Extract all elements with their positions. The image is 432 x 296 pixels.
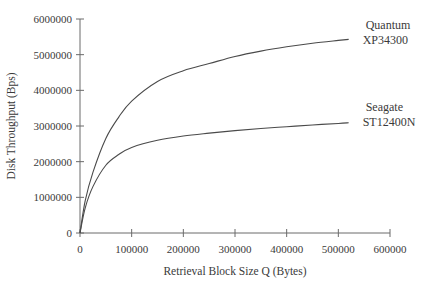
- x-tick-label: 100000: [115, 243, 149, 255]
- series-label: Seagate: [366, 100, 403, 114]
- throughput-chart: 0100000020000003000000400000050000006000…: [0, 0, 432, 296]
- x-tick-label: 400000: [270, 243, 304, 255]
- series-label: XP34300: [363, 33, 408, 47]
- series-label: ST12400N: [363, 115, 416, 129]
- x-tick-label: 600000: [374, 243, 408, 255]
- y-axis: 0100000020000003000000400000050000006000…: [34, 13, 85, 239]
- y-tick-label: 5000000: [34, 49, 73, 61]
- series-line-1: [80, 123, 349, 233]
- x-tick-label: 0: [77, 243, 83, 255]
- y-axis-title: Disk Throughput (Bps): [5, 72, 18, 179]
- x-axis-title: Retrieval Block Size Q (Bytes): [163, 265, 306, 278]
- series-line-0: [80, 39, 349, 233]
- x-tick-label: 500000: [322, 243, 356, 255]
- series-lines: [80, 39, 349, 233]
- series-labels: QuantumXP34300SeagateST12400N: [363, 18, 416, 128]
- y-tick-label: 1000000: [34, 191, 73, 203]
- x-tick-label: 300000: [219, 243, 253, 255]
- y-tick-label: 3000000: [34, 120, 73, 132]
- y-tick-label: 2000000: [34, 156, 73, 168]
- x-tick-label: 200000: [167, 243, 201, 255]
- series-label: Quantum: [366, 18, 411, 32]
- y-tick-label: 4000000: [34, 84, 73, 96]
- y-tick-label: 0: [67, 227, 73, 239]
- x-axis: 0100000200000300000400000500000600000: [77, 229, 407, 255]
- y-tick-label: 6000000: [34, 13, 73, 25]
